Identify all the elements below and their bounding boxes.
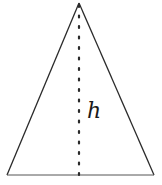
triangle-left-side [7,3,79,175]
triangle-right-side [79,3,154,175]
height-label: h [87,100,101,122]
triangle-diagram [0,0,162,185]
